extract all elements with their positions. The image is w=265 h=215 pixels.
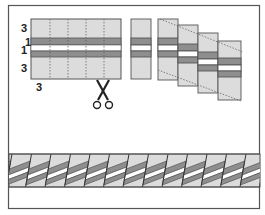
- label-narrow-2: 1: [21, 44, 27, 56]
- strip-set: [31, 19, 121, 79]
- segment: [178, 25, 198, 86]
- segment: [198, 33, 218, 93]
- label-bottom-strip: 3: [21, 62, 27, 74]
- patchwork-diagram: 3 1 1 3 3: [0, 0, 265, 215]
- label-top-strip: 3: [21, 22, 27, 34]
- segment: [218, 41, 241, 100]
- segment: [131, 19, 151, 79]
- label-segment-width: 3: [36, 81, 42, 93]
- finished-band: [0, 154, 265, 187]
